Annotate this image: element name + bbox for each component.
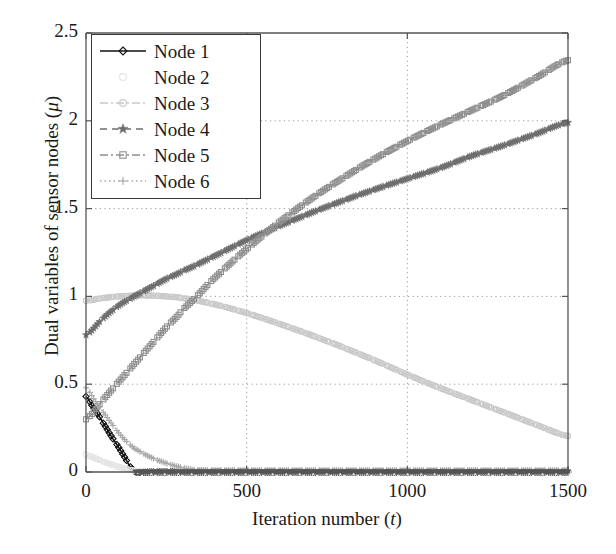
legend-label: Node 6 (149, 172, 209, 191)
legend-sample-node-6 (97, 170, 149, 192)
legend-sample-node-3 (97, 92, 149, 114)
data-marker-circle (120, 74, 127, 81)
x-tick-label: 1500 (523, 480, 613, 502)
y-axis-label: Dual variables of sensor nodes (μ) (41, 26, 63, 426)
data-marker-star (118, 124, 128, 133)
series-node-6 (83, 385, 571, 474)
y-tick-label: 0 (34, 459, 78, 481)
y-tick-label: 0.5 (34, 371, 78, 393)
legend-item[interactable]: Node 3 (92, 90, 260, 116)
legend-label: Node 1 (149, 42, 209, 61)
legend-sample-node-4 (97, 118, 149, 140)
legend-label: Node 5 (149, 146, 209, 165)
legend-item[interactable]: Node 6 (92, 168, 260, 194)
chart-figure: Dual variables of sensor nodes (μ) Itera… (0, 0, 616, 554)
legend: Node 1 Node 2 Node 3 Node 4 Node 5 Node … (91, 34, 261, 199)
legend-item[interactable]: Node 2 (92, 64, 260, 90)
legend-label: Node 2 (149, 68, 209, 87)
legend-item[interactable]: Node 1 (92, 38, 260, 64)
x-tick-label: 500 (202, 480, 292, 502)
x-tick-label: 0 (41, 480, 131, 502)
x-tick-label: 1000 (362, 480, 452, 502)
legend-sample-node-2 (97, 66, 149, 88)
series-node-1 (83, 393, 571, 475)
series-node-3 (83, 293, 570, 439)
legend-label: Node 4 (149, 120, 209, 139)
y-tick-label: 1.5 (34, 196, 78, 218)
series-line (86, 388, 568, 471)
legend-item[interactable]: Node 5 (92, 142, 260, 168)
y-tick-label: 2 (34, 108, 78, 130)
series-line (86, 295, 568, 436)
y-tick-label: 1 (34, 283, 78, 305)
x-axis-label: Iteration number (t) (85, 508, 569, 530)
legend-label: Node 3 (149, 94, 209, 113)
legend-item[interactable]: Node 4 (92, 116, 260, 142)
legend-sample-node-5 (97, 144, 149, 166)
data-marker-plus (119, 177, 127, 185)
y-tick-label: 2.5 (34, 20, 78, 42)
legend-sample-node-1 (97, 40, 149, 62)
